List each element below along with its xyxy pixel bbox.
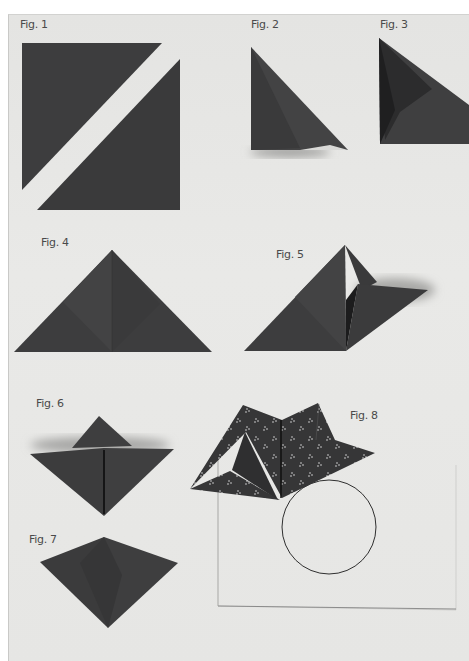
figure-3-folded-triangle xyxy=(379,38,469,144)
origami-illustrations xyxy=(0,0,469,661)
figure-5-label: Fig. 5 xyxy=(276,248,304,261)
figure-8-finished-with-template xyxy=(190,403,456,610)
figure-6-folding-step xyxy=(30,416,174,516)
figure-2-label: Fig. 2 xyxy=(251,18,279,31)
figure-6-label: Fig. 6 xyxy=(36,397,64,410)
figure-3-label: Fig. 3 xyxy=(380,18,408,31)
book-page: Fig. 1 Fig. 2 Fig. 3 Fig. 4 Fig. 5 Fig. … xyxy=(0,0,469,661)
figure-4-waterbomb-base xyxy=(14,250,212,352)
figure-7-label: Fig. 7 xyxy=(29,533,57,546)
figure-8-label: Fig. 8 xyxy=(350,409,378,422)
figure-7-folding-step xyxy=(40,537,178,628)
figure-4-label: Fig. 4 xyxy=(41,236,69,249)
figure-1-cut-square xyxy=(22,43,180,210)
figure-5-folding-step xyxy=(244,245,435,351)
figure-2-folded-triangle xyxy=(250,47,348,157)
figure-1-label: Fig. 1 xyxy=(20,18,48,31)
